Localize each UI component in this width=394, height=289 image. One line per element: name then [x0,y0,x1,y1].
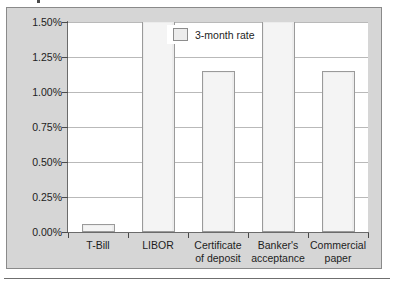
image-artifact-speck [37,0,40,3]
y-axis-tick-label: 0.50% [10,157,62,167]
gridline [68,22,368,23]
legend-label-3-month-rate: 3-month rate [195,29,255,41]
bar-libor [142,22,175,232]
y-axis-tick-mark [62,57,68,58]
y-axis-tick-mark [62,92,68,93]
x-axis-category-label: Banker's acceptance [248,239,308,264]
plot-area [68,22,368,232]
chart-legend: 3-month rate [167,25,261,44]
bar-highlight [264,23,292,231]
y-axis-tick-mark [62,22,68,23]
x-axis-tick-mark [68,233,69,238]
gridline [68,57,368,58]
legend-swatch-3-month-rate [173,28,188,41]
x-axis-tick-mark [368,233,369,238]
y-axis-tick-label: 1.25% [10,52,62,62]
y-axis-tick-label: 0.00% [10,227,62,237]
bar-t-bill [82,224,115,232]
bar-highlight [324,73,352,231]
x-axis-tick-mark [128,233,129,238]
x-axis-tick-mark [308,233,309,238]
footer-rule [4,278,390,279]
x-axis-category-label: Commercial paper [308,239,368,264]
chart-figure: 0.00%0.25%0.50%0.75%1.00%1.25%1.50% 3-mo… [0,0,394,289]
bar-highlight [84,226,112,231]
y-axis-tick-label: 1.00% [10,87,62,97]
bar-highlight [144,23,172,231]
bar-certificate-of-deposit [202,71,235,232]
y-axis-tick-mark [62,162,68,163]
y-axis-tick-label: 1.50% [10,17,62,27]
bar-commercial-paper [322,71,355,232]
x-axis-tick-mark [248,233,249,238]
y-axis-tick-label: 0.75% [10,122,62,132]
x-axis-tick-mark [188,233,189,238]
x-axis-category-label: Certificate of deposit [188,239,248,264]
y-axis-tick-mark [62,197,68,198]
y-axis-tick-mark [62,127,68,128]
bar-banker-s-acceptance [262,22,295,232]
bar-highlight [204,73,232,231]
x-axis-category-label: T-Bill [68,239,128,252]
y-axis: 0.00%0.25%0.50%0.75%1.00%1.25%1.50% [6,22,62,232]
y-axis-tick-label: 0.25% [10,192,62,202]
x-axis-category-label: LIBOR [128,239,188,252]
x-axis-line [67,232,369,233]
